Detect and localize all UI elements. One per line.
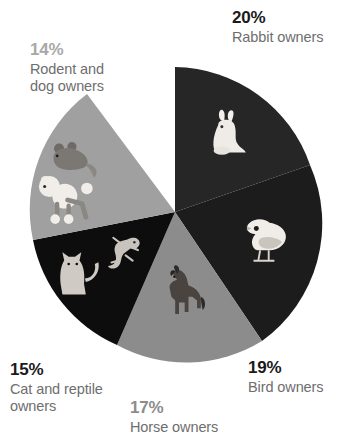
pie-chart-figure: 20% Rabbit owners 14% Rodent and dog own… — [0, 0, 351, 442]
label-horse-owners: 17% Horse owners — [130, 398, 242, 436]
label-rodent-dog-owners: 14% Rodent and dog owners — [30, 40, 150, 96]
label-bird-name: Bird owners — [248, 379, 348, 397]
label-rodent-percent: 14% — [30, 40, 150, 61]
label-rabbit-owners: 20% Rabbit owners — [232, 8, 350, 46]
label-rodent-name-line1: Rodent and — [30, 61, 150, 79]
label-bird-percent: 19% — [248, 358, 348, 379]
label-horse-name: Horse owners — [130, 419, 242, 437]
label-bird-owners: 19% Bird owners — [248, 358, 348, 396]
label-cat-name-line1: Cat and reptile — [10, 381, 140, 399]
label-cat-percent: 15% — [10, 360, 140, 381]
label-rabbit-percent: 20% — [232, 8, 350, 29]
label-horse-percent: 17% — [130, 398, 242, 419]
label-cat-reptile-owners: 15% Cat and reptile owners — [10, 360, 140, 416]
label-cat-name-line2: owners — [10, 398, 140, 416]
label-rodent-name-line2: dog owners — [30, 78, 150, 96]
label-rabbit-name: Rabbit owners — [232, 29, 350, 47]
